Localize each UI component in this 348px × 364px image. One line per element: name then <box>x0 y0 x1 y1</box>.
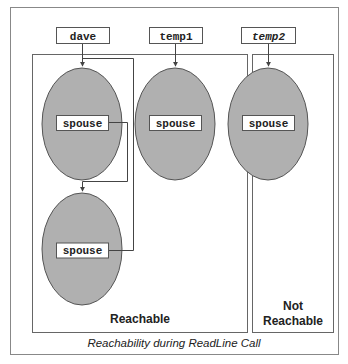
variable-label: dave <box>70 31 97 43</box>
field-label: spouse <box>63 245 103 257</box>
field-label: spouse <box>63 118 103 130</box>
field-label: spouse <box>156 118 196 130</box>
spouse-field-3: spouse <box>150 116 202 131</box>
variable-label: temp1 <box>159 31 192 43</box>
not-reachable-label-line2: Reachable <box>263 314 323 328</box>
reachable-label: Reachable <box>110 312 170 326</box>
not-reachable-label-line1: Not <box>283 299 303 313</box>
variable-label: temp2 <box>252 31 285 43</box>
reachability-diagram: dave temp1 temp2 spouse spouse spouse sp… <box>0 0 348 364</box>
spouse-field-1: spouse <box>57 116 109 131</box>
variable-dave: dave <box>57 28 110 44</box>
figure-caption: Reachability during ReadLine Call <box>87 337 261 349</box>
spouse-field-4: spouse <box>243 116 295 131</box>
variable-temp2: temp2 <box>242 28 296 44</box>
field-label: spouse <box>249 118 289 130</box>
variable-temp1: temp1 <box>150 28 203 44</box>
spouse-field-2: spouse <box>57 243 109 258</box>
